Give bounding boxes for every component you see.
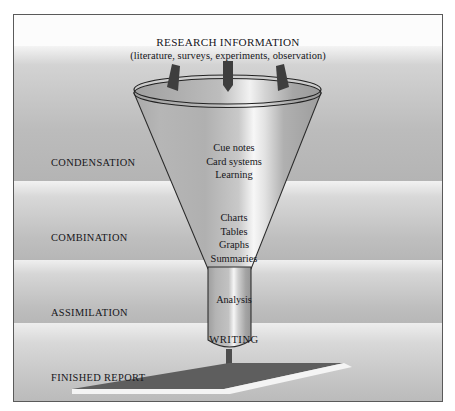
sidebar-item-combination: COMBINATION bbox=[51, 232, 128, 243]
sidebar-item-finished-report: FINISHED REPORT bbox=[51, 372, 145, 383]
funnel-text-condensation: Cue notes Card systems Learning bbox=[174, 141, 294, 182]
funnel-item-card-systems: Card systems bbox=[174, 155, 294, 169]
funnel-text-combination: Charts Tables Graphs Summaries bbox=[174, 211, 294, 266]
research-funnel-figure: RESEARCH INFORMATION (literature, survey… bbox=[0, 0, 455, 411]
funnel-item-charts: Charts bbox=[174, 211, 294, 225]
funnel-text-assimilation: Analysis bbox=[189, 293, 279, 306]
sidebar-item-condensation: CONDENSATION bbox=[51, 157, 135, 168]
funnel-item-summaries: Summaries bbox=[174, 252, 294, 266]
down-arrow-icon-right bbox=[276, 64, 289, 91]
down-arrow-icon-left bbox=[167, 64, 180, 91]
funnel-item-graphs: Graphs bbox=[174, 238, 294, 252]
sidebar-item-assimilation: ASSIMILATION bbox=[51, 307, 128, 318]
funnel-item-learning: Learning bbox=[174, 168, 294, 182]
funnel-item-tables: Tables bbox=[174, 225, 294, 239]
funnel-item-analysis: Analysis bbox=[189, 293, 279, 306]
figure-frame: RESEARCH INFORMATION (literature, survey… bbox=[13, 14, 443, 402]
funnel-item-writing: WRITING bbox=[189, 333, 279, 347]
funnel-text-writing: WRITING bbox=[189, 333, 279, 347]
funnel-item-cue-notes: Cue notes bbox=[174, 141, 294, 155]
